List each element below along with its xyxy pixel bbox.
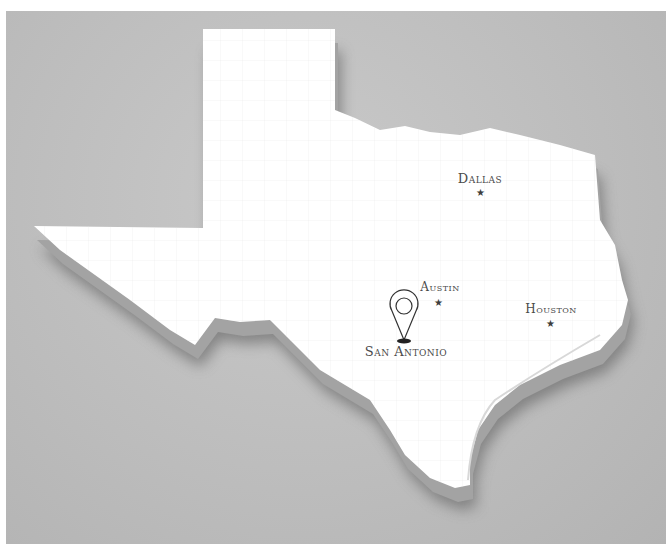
- city-label: San Antonio: [365, 344, 447, 359]
- county-boundaries: [34, 29, 628, 488]
- star-icon: ★: [546, 318, 555, 329]
- star-icon: ★: [434, 297, 443, 308]
- city-label: Austin: [419, 280, 459, 294]
- city-label: Houston: [525, 302, 577, 316]
- city-label: Dallas: [458, 171, 503, 186]
- texas-map[interactable]: Dallas ★ Austin ★ Houston ★ San Antonio: [0, 0, 672, 549]
- star-icon: ★: [476, 187, 485, 198]
